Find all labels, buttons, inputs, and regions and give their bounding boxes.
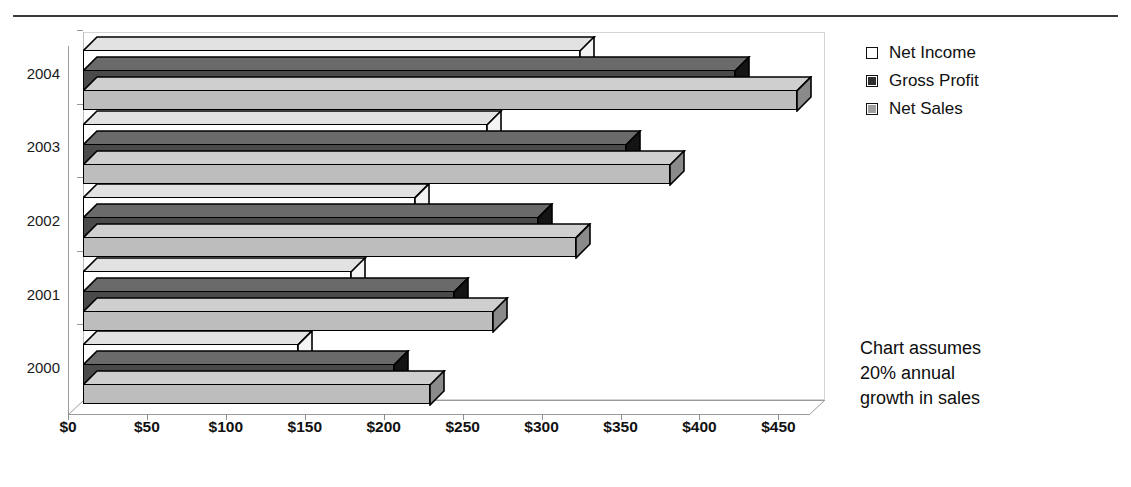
y-axis-label-2001: 2001 <box>8 286 60 303</box>
bar-top-face <box>83 110 503 124</box>
header-divider <box>13 15 1118 17</box>
bar-front-face <box>83 311 493 331</box>
x-axis-label-usd-250: $250 <box>428 418 498 436</box>
legend-item-net-sales[interactable]: Net Sales <box>866 96 979 122</box>
x-axis-label-usd-400: $400 <box>664 418 734 436</box>
bar-front-face <box>83 164 670 184</box>
chart-legend: Net Income Gross Profit Net Sales <box>866 40 979 124</box>
annotation-line-2: 20% annual <box>860 361 1110 386</box>
y-tick <box>77 30 83 31</box>
x-axis-label-usd-150: $150 <box>270 418 340 436</box>
bar-gross-profit-2001 <box>83 277 468 297</box>
chart-left-front-edge <box>68 46 69 414</box>
x-axis-label-usd-450: $450 <box>743 418 813 436</box>
chart-page: 20002001200220032004 $0$50$100$150$200$2… <box>0 0 1131 487</box>
bar-top-face <box>83 36 596 50</box>
y-tick <box>77 251 83 252</box>
annotation-line-1: Chart assumes <box>860 336 1110 361</box>
y-tick <box>77 177 83 178</box>
legend-label-net-income: Net Income <box>889 43 976 63</box>
bar-side-face <box>429 370 445 406</box>
bar-gross-profit-2000 <box>83 350 408 370</box>
x-axis-label-usd-350: $350 <box>586 418 656 436</box>
legend-item-gross-profit[interactable]: Gross Profit <box>866 68 979 94</box>
bar-gross-profit-2004 <box>83 56 749 76</box>
chart-plot-area <box>68 30 828 405</box>
bar-top-face <box>83 203 554 217</box>
y-tick <box>77 104 83 105</box>
bar-top-face <box>83 330 314 344</box>
y-tick <box>77 324 83 325</box>
annotation-line-3: growth in sales <box>860 386 1110 411</box>
bar-net-income-2004 <box>83 36 594 56</box>
bar-top-face <box>83 76 813 90</box>
bar-front-face <box>83 90 797 110</box>
bar-top-face <box>83 56 751 70</box>
bar-side-face <box>669 150 685 186</box>
bar-top-face <box>83 150 686 164</box>
bar-net-income-2001 <box>83 257 365 277</box>
bar-top-face <box>83 370 446 384</box>
bar-net-sales-2004 <box>83 76 811 96</box>
x-axis-label-usd-200: $200 <box>349 418 419 436</box>
bar-net-income-2000 <box>83 330 312 350</box>
legend-swatch-net-income-icon <box>866 47 878 59</box>
x-axis-label-usd-50: $50 <box>112 418 182 436</box>
bar-top-face <box>83 183 431 197</box>
bar-top-face <box>83 277 470 291</box>
bar-top-face <box>83 297 509 311</box>
legend-label-net-sales: Net Sales <box>889 99 963 119</box>
x-axis-label-usd-0: $0 <box>33 418 103 436</box>
y-axis-label-2000: 2000 <box>8 359 60 376</box>
x-axis-label-usd-100: $100 <box>191 418 261 436</box>
bar-side-face <box>575 223 591 259</box>
y-axis-label-2003: 2003 <box>8 138 60 155</box>
legend-item-net-income[interactable]: Net Income <box>866 40 979 66</box>
bar-net-sales-2003 <box>83 150 684 170</box>
bar-top-face <box>83 257 367 271</box>
floor-diagonal-right <box>809 399 829 416</box>
legend-swatch-gross-profit-icon <box>866 75 878 87</box>
legend-swatch-net-sales-icon <box>866 103 878 115</box>
chart-annotation: Chart assumes 20% annual growth in sales <box>860 336 1110 411</box>
bar-top-face <box>83 130 642 144</box>
bar-gross-profit-2003 <box>83 130 640 150</box>
x-axis-label-usd-300: $300 <box>507 418 577 436</box>
bar-gross-profit-2002 <box>83 203 552 223</box>
bar-net-sales-2001 <box>83 297 507 317</box>
bar-front-face <box>83 384 430 404</box>
bar-net-income-2003 <box>83 110 501 130</box>
bar-top-face <box>83 350 410 364</box>
bar-front-face <box>83 237 576 257</box>
bar-top-face <box>83 223 592 237</box>
y-axis-label-2002: 2002 <box>8 212 60 229</box>
legend-label-gross-profit: Gross Profit <box>889 71 979 91</box>
bar-net-sales-2002 <box>83 223 590 243</box>
bar-net-income-2002 <box>83 183 429 203</box>
bar-net-sales-2000 <box>83 370 444 390</box>
y-axis-label-2004: 2004 <box>8 65 60 82</box>
bar-side-face <box>796 76 812 112</box>
clipped-header-text <box>0 0 1131 4</box>
bar-side-face <box>492 297 508 333</box>
